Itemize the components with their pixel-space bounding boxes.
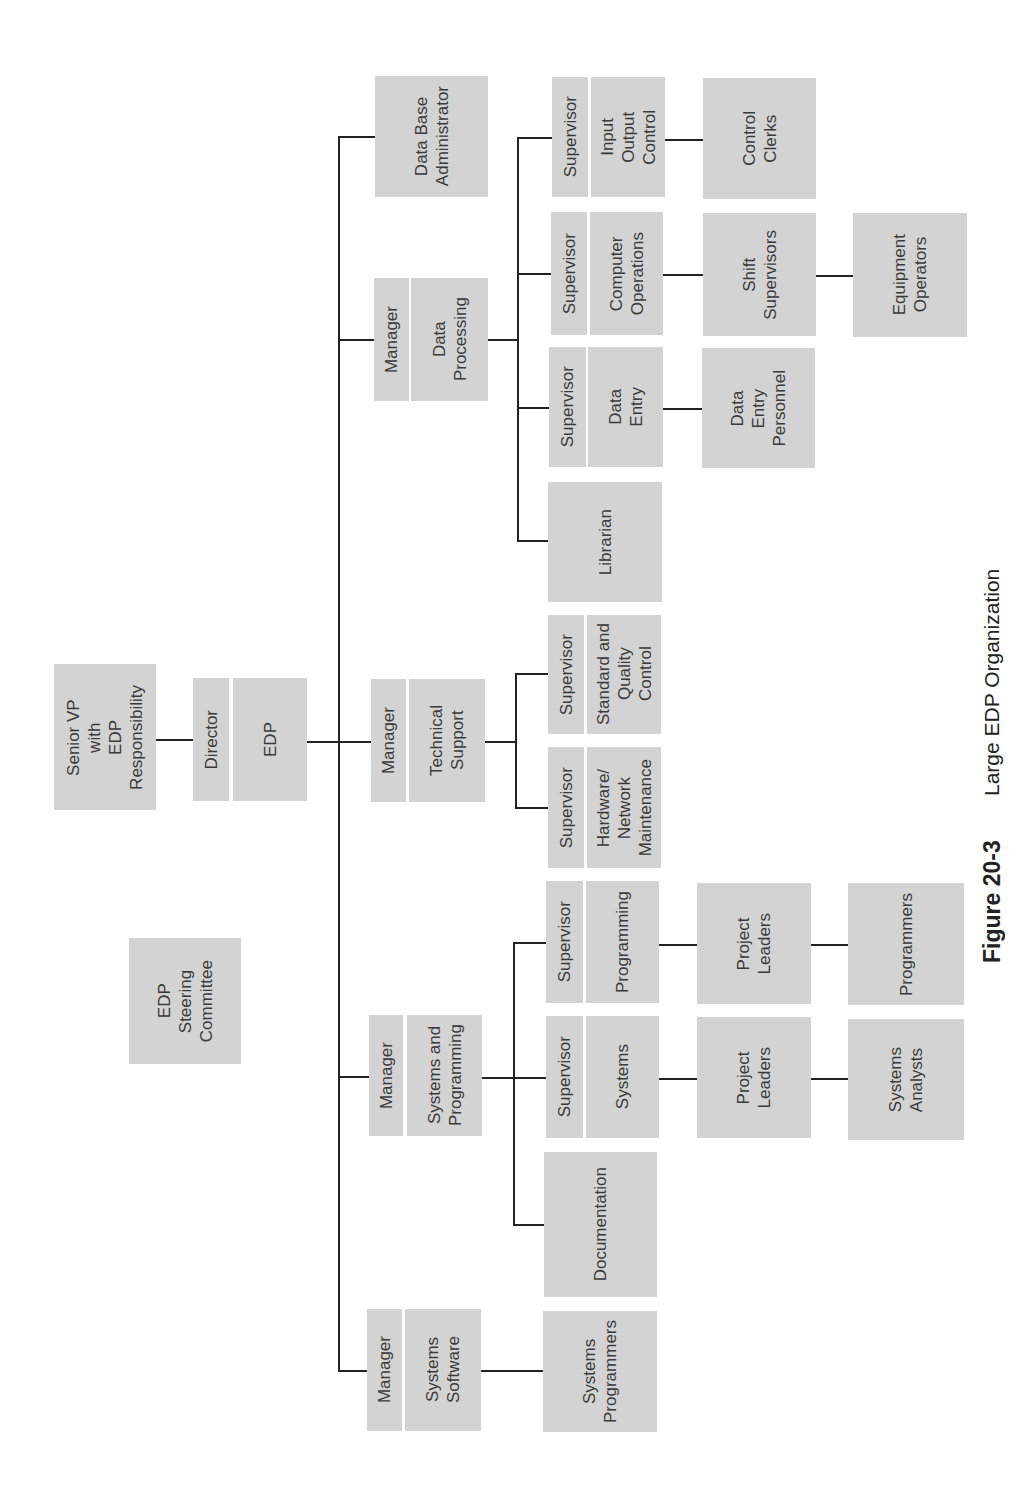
node-hardware-network-maintenance: Hardware/ Network Maintenance: [587, 747, 661, 868]
node-sys-supervisor: Supervisor: [546, 1016, 583, 1138]
node-label: Hardware/ Network Maintenance: [593, 759, 656, 856]
node-documentation: Documentation: [544, 1152, 657, 1297]
node-label: Supervisor: [556, 634, 577, 715]
figure-number: Figure 20-3: [979, 840, 1006, 963]
node-label: Standard and Quality Control: [593, 623, 656, 725]
node-label: Data Base Administrator: [411, 86, 453, 186]
node-label: Supervisor: [554, 1036, 575, 1117]
node-label: Technical Support: [426, 705, 468, 776]
node-label: Manager: [378, 707, 399, 774]
node-ss-manager: Manager: [367, 1309, 402, 1431]
node-senior-vp: Senior VP with EDP Responsibility: [54, 664, 156, 810]
connector-programming: [513, 942, 546, 944]
node-label: Data Entry: [605, 387, 647, 427]
node-shift-supervisors: Shift Supervisors: [703, 213, 816, 336]
node-director-unit: EDP: [233, 678, 307, 801]
node-equipment-operators: Equipment Operators: [853, 213, 967, 337]
node-computer-operations: Computer Operations: [590, 212, 663, 335]
node-programming: Programming: [586, 881, 659, 1003]
node-label: Project Leaders: [733, 913, 775, 974]
node-label: Programming: [612, 891, 633, 993]
connector-svp-director: [156, 739, 193, 741]
node-io-supervisor: Supervisor: [552, 77, 588, 197]
connector-prog-project-leaders: [659, 944, 697, 946]
node-label: Manager: [374, 1336, 395, 1403]
node-label: Systems Programmers: [579, 1320, 621, 1423]
node-sqc-supervisor: Supervisor: [548, 615, 584, 734]
connector-equipment-operators: [816, 275, 853, 277]
node-label: Supervisor: [557, 366, 578, 447]
node-control-clerks: Control Clerks: [703, 78, 816, 199]
node-label: Manager: [376, 1042, 397, 1109]
connector-sp-trunk: [513, 942, 515, 1226]
node-label: Systems: [612, 1044, 633, 1109]
connector-shift-supervisors: [663, 274, 703, 276]
node-label: EDP: [260, 722, 281, 757]
connector-sqc: [515, 673, 548, 675]
connector-main-trunk: [338, 136, 340, 1372]
connector-programmers: [811, 944, 848, 946]
connector-systems: [513, 1077, 546, 1079]
node-programmers: Programmers: [848, 883, 964, 1005]
connector-systems-analysts: [811, 1078, 848, 1080]
connector-systems-programmers: [481, 1370, 543, 1372]
node-sys-project-leaders: Project Leaders: [697, 1017, 811, 1138]
connector-io-control: [517, 137, 552, 139]
node-label: Computer Operations: [606, 232, 648, 315]
node-label: Supervisor: [559, 233, 580, 314]
figure-caption: Figure 20-3 Large EDP Organization: [979, 548, 1007, 963]
node-hnm-supervisor: Supervisor: [548, 747, 584, 868]
connector-data-processing: [338, 339, 374, 341]
connector-edp-technical-support: [307, 741, 371, 743]
node-label: Systems and Programming: [424, 1024, 466, 1126]
connector-ts-branch: [485, 741, 516, 743]
node-co-supervisor: Supervisor: [551, 212, 587, 335]
node-steering-committee: EDP Steering Committee: [129, 938, 241, 1064]
node-label: Supervisor: [554, 901, 575, 982]
node-ts-unit: Technical Support: [409, 679, 485, 802]
connector-librarian: [517, 540, 548, 542]
node-sp-manager: Manager: [369, 1015, 403, 1136]
node-label: Equipment Operators: [889, 234, 931, 315]
node-label: Data Processing: [429, 297, 471, 381]
org-chart: EDP Steering Committee Senior VP with ED…: [0, 0, 1016, 1495]
node-ss-unit: Systems Software: [405, 1309, 481, 1431]
node-label: Project Leaders: [733, 1047, 775, 1108]
node-label: Manager: [381, 306, 402, 373]
connector-sp-branch: [482, 1077, 514, 1079]
connector-data-entry-personnel: [663, 408, 702, 410]
node-label: Librarian: [595, 509, 616, 575]
node-dp-manager: Manager: [374, 278, 409, 401]
node-label: Programmers: [896, 893, 917, 996]
node-director-role: Director: [193, 678, 229, 801]
node-data-entry: Data Entry: [588, 347, 663, 467]
node-label: Supervisor: [560, 96, 581, 177]
connector-ts-trunk: [515, 673, 517, 809]
node-prog-project-leaders: Project Leaders: [697, 883, 811, 1004]
node-label: Systems Analysts: [885, 1047, 927, 1112]
node-label: Systems Software: [422, 1336, 464, 1403]
node-prog-supervisor: Supervisor: [546, 881, 583, 1003]
node-librarian: Librarian: [548, 482, 662, 602]
node-systems-programmers: Systems Programmers: [543, 1311, 657, 1432]
node-label: Director: [201, 710, 222, 770]
node-data-base-administrator: Data Base Administrator: [375, 76, 488, 197]
node-label: Data Entry Personnel: [727, 370, 790, 447]
connector-systems-programming: [338, 1076, 369, 1078]
connector-control-clerks: [665, 139, 703, 141]
node-label: Senior VP with EDP Responsibility: [63, 685, 147, 790]
node-label: Documentation: [590, 1167, 611, 1281]
node-label: Input Output Control: [597, 110, 660, 165]
node-ts-manager: Manager: [371, 679, 406, 802]
connector-computer-ops: [517, 273, 551, 275]
connector-documentation: [513, 1224, 544, 1226]
node-de-supervisor: Supervisor: [549, 347, 586, 467]
node-io-control: Input Output Control: [591, 77, 665, 197]
connector-dba: [338, 136, 375, 138]
figure-title: Large EDP Organization: [980, 569, 1004, 796]
connector-sys-project-leaders: [659, 1078, 697, 1080]
node-standard-quality-control: Standard and Quality Control: [587, 615, 661, 734]
node-label: EDP Steering Committee: [154, 960, 217, 1042]
connector-dp-trunk: [517, 137, 519, 542]
connector-dp-branch: [488, 339, 518, 341]
